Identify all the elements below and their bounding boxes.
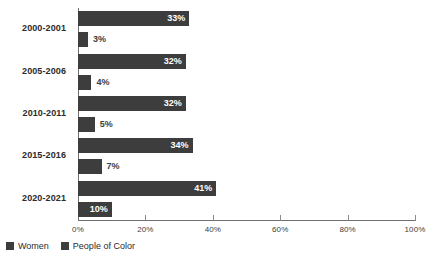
bar: 34% <box>78 138 193 153</box>
x-tick-label: 40% <box>205 225 221 234</box>
plot-area: 0%20%40%60%80%100% 33%3%32%4%32%5%34%7%4… <box>78 8 415 220</box>
category-label: 2010-2011 <box>23 108 66 118</box>
bar-value-label: 4% <box>96 75 109 90</box>
x-tick-label: 20% <box>137 225 153 234</box>
x-tick-label: 0% <box>72 225 84 234</box>
bar: 41% <box>78 181 216 196</box>
bar-value-label: 32% <box>164 54 182 69</box>
bar-value-label: 32% <box>164 96 182 111</box>
bar-value-label: 3% <box>93 32 106 47</box>
bar-value-label: 10% <box>90 202 108 217</box>
horizontal-bar-chart: 2000-20012005-20062010-20112015-20162020… <box>0 0 433 261</box>
x-tick-label: 100% <box>405 225 426 234</box>
bar-group: 33%3% <box>78 8 415 50</box>
legend-item[interactable]: Women <box>6 241 49 251</box>
bar-value-label: 7% <box>107 159 120 174</box>
bar: 33% <box>78 11 189 26</box>
chart-legend: WomenPeople of Color <box>6 241 135 251</box>
bar-value-label: 41% <box>194 181 212 196</box>
category-label: 2005-2006 <box>22 66 66 76</box>
x-tick-label: 60% <box>272 225 288 234</box>
bar-group: 41%10% <box>78 178 415 220</box>
legend-swatch-icon <box>61 242 69 250</box>
bar: 3% <box>78 32 88 47</box>
x-tick-label: 80% <box>339 225 355 234</box>
x-axis-line <box>78 220 415 221</box>
legend-swatch-icon <box>6 242 14 250</box>
category-label: 2020-2021 <box>22 193 66 203</box>
bar: 7% <box>78 159 102 174</box>
bar: 32% <box>78 54 186 69</box>
legend-label: Women <box>18 241 49 251</box>
category-label: 2015-2016 <box>22 150 66 160</box>
bar: 5% <box>78 117 95 132</box>
x-tick-mark <box>415 215 416 221</box>
bar-group: 34%7% <box>78 135 415 177</box>
category-label: 2000-2001 <box>22 23 66 33</box>
bar-value-label: 34% <box>171 138 189 153</box>
bar: 10% <box>78 202 112 217</box>
bar: 32% <box>78 96 186 111</box>
category-axis-labels: 2000-20012005-20062010-20112015-20162020… <box>0 8 72 220</box>
legend-item[interactable]: People of Color <box>61 241 135 251</box>
bar-group: 32%5% <box>78 93 415 135</box>
legend-label: People of Color <box>73 241 135 251</box>
bar-value-label: 5% <box>100 117 113 132</box>
bar: 4% <box>78 75 91 90</box>
bar-group: 32%4% <box>78 50 415 92</box>
bar-value-label: 33% <box>167 11 185 26</box>
